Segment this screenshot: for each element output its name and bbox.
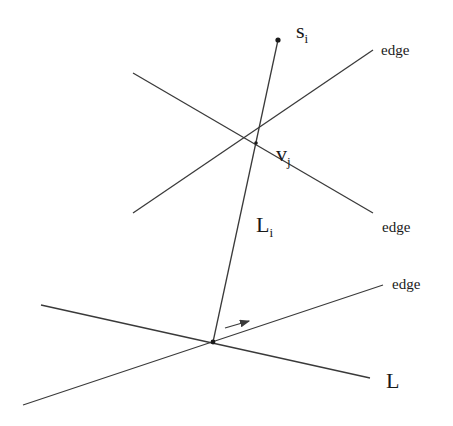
base-point — [211, 340, 216, 345]
vertex-point — [254, 141, 258, 145]
direction-arrow-icon — [225, 321, 249, 328]
site-point — [275, 37, 280, 42]
edge-line-upper-rising — [133, 50, 373, 213]
edge-label-bottom: edge — [392, 276, 421, 292]
line-l — [41, 305, 370, 378]
edge-label-middle: edge — [382, 219, 411, 235]
segment-label: Li — [256, 212, 273, 240]
edge-line-upper-falling — [133, 73, 373, 213]
edge-line-lower — [23, 285, 383, 405]
segment-l-i — [213, 40, 278, 342]
vertex-label: vj — [276, 141, 291, 169]
diagram-canvas: si vj Li edge edge edge L — [0, 0, 453, 426]
edge-label-top: edge — [381, 42, 410, 58]
line-l-label: L — [386, 368, 399, 393]
site-label: si — [296, 18, 309, 46]
